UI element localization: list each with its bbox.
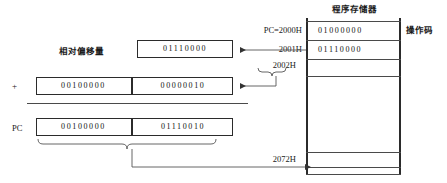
address-pc-current: PC=2000H: [236, 26, 302, 35]
pc-label: PC: [12, 124, 22, 133]
arrow-2002h-to-addend: [240, 76, 276, 86]
address-2001h: 2001H: [236, 45, 302, 54]
relative-addressing-diagram: 相对偏移量 01110000 + 00100000 00000010 PC 00…: [0, 0, 447, 183]
plus-sign: +: [12, 82, 17, 91]
memory-row-sep-5: [306, 167, 401, 168]
summation-rule: [27, 103, 248, 104]
memory-row-sep-0: [306, 21, 401, 22]
addend-low-value: 00000010: [133, 82, 233, 90]
opcode-label: 操作码: [406, 26, 433, 35]
pc-result-low-value: 01110010: [133, 123, 233, 131]
addend-high-value: 00100000: [36, 82, 131, 90]
memory-row-sep-4: [306, 152, 401, 153]
memory-row-sep-2: [306, 59, 401, 60]
memory-cell-0-value: 01000000: [318, 27, 363, 35]
brace-pc-result: [38, 139, 216, 149]
relative-offset-value: 01110000: [137, 45, 233, 53]
memory-cell-1-value: 01110000: [318, 46, 362, 54]
memory-row-sep-6: [306, 174, 401, 175]
memory-row-sep-3: [306, 76, 401, 77]
memory-row-sep-1: [306, 40, 401, 41]
address-2002h: 2002H: [236, 61, 296, 70]
program-memory-title: 程序存储器: [332, 5, 377, 14]
relative-offset-label: 相对偏移量: [59, 47, 104, 56]
pc-result-high-value: 00100000: [36, 123, 131, 131]
address-2072h: 2072H: [250, 155, 296, 164]
